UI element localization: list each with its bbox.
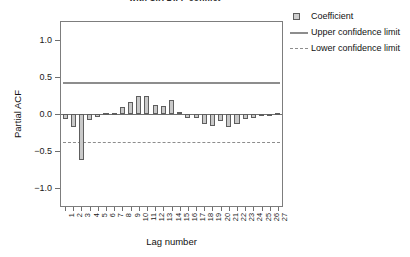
x-tick bbox=[221, 207, 222, 211]
x-tick bbox=[73, 207, 74, 211]
x-tick bbox=[163, 207, 164, 211]
x-tick bbox=[188, 207, 189, 211]
bar bbox=[153, 105, 158, 114]
y-tick-label: −1.0 bbox=[34, 183, 52, 193]
plot-area bbox=[60, 21, 283, 207]
x-tick bbox=[147, 207, 148, 211]
x-axis-title: Lag number bbox=[60, 236, 283, 247]
bar bbox=[185, 114, 190, 118]
legend-label-upper-confidence: Upper confidence limit bbox=[311, 27, 400, 37]
bar bbox=[259, 114, 264, 116]
bar bbox=[95, 114, 100, 117]
legend-label-lower-confidence: Lower confidence limit bbox=[311, 43, 400, 53]
bar bbox=[194, 114, 199, 118]
bar bbox=[112, 113, 117, 115]
bar bbox=[63, 114, 68, 119]
bar bbox=[251, 114, 256, 118]
legend: Coefficient Upper confidence limit Lower… bbox=[289, 9, 407, 57]
x-tick-label: 10 bbox=[142, 213, 149, 221]
x-tick-label: 11 bbox=[150, 213, 157, 221]
bar bbox=[120, 107, 125, 114]
x-tick-label: 26 bbox=[273, 213, 280, 221]
x-tick-label: 25 bbox=[265, 213, 272, 221]
x-tick-label: 14 bbox=[175, 213, 182, 221]
bar bbox=[177, 112, 182, 114]
x-tick-label: 3 bbox=[84, 213, 91, 217]
x-tick-label: 21 bbox=[232, 213, 239, 221]
y-tick-label: 0.0 bbox=[39, 109, 52, 119]
y-axis-title: Partial ACF bbox=[12, 64, 23, 164]
coefficient-swatch-icon bbox=[289, 10, 311, 22]
bar bbox=[87, 114, 92, 120]
y-axis: Partial ACF 1.00.50.0−0.5−1.0 bbox=[0, 21, 60, 207]
bar bbox=[79, 114, 84, 160]
x-tick bbox=[262, 207, 263, 211]
x-axis: 1234567891011121314151617181920212223242… bbox=[60, 207, 283, 237]
x-tick-label: 19 bbox=[215, 213, 222, 221]
x-tick-label: 13 bbox=[166, 213, 173, 221]
bar bbox=[128, 102, 133, 114]
x-tick bbox=[155, 207, 156, 211]
x-tick bbox=[90, 207, 91, 211]
chart-title: with SIX DIFF conflict bbox=[60, 0, 290, 2]
x-tick-label: 16 bbox=[191, 213, 198, 221]
dashed-line-icon bbox=[289, 42, 311, 54]
x-tick-label: 6 bbox=[109, 213, 116, 217]
x-tick-label: 27 bbox=[281, 213, 288, 221]
bar bbox=[161, 106, 166, 114]
x-tick-label: 17 bbox=[199, 213, 206, 221]
x-tick bbox=[253, 207, 254, 211]
bar-series bbox=[61, 22, 282, 206]
x-tick bbox=[98, 207, 99, 211]
pacf-chart-figure: with SIX DIFF conflict Partial ACF 1.00.… bbox=[0, 0, 410, 257]
legend-item-lower-confidence: Lower confidence limit bbox=[289, 41, 407, 55]
bar bbox=[275, 113, 280, 115]
y-tick-label: 0.5 bbox=[39, 72, 52, 82]
x-tick bbox=[237, 207, 238, 211]
x-tick bbox=[245, 207, 246, 211]
x-tick-label: 15 bbox=[183, 213, 190, 221]
solid-line-icon bbox=[289, 26, 311, 38]
bar bbox=[243, 114, 248, 119]
x-tick bbox=[278, 207, 279, 211]
x-tick-label: 22 bbox=[240, 213, 247, 221]
x-tick bbox=[172, 207, 173, 211]
x-tick-label: 5 bbox=[101, 213, 108, 217]
x-tick bbox=[139, 207, 140, 211]
bar bbox=[144, 96, 149, 114]
bar bbox=[103, 113, 108, 115]
x-tick-label: 20 bbox=[224, 213, 231, 221]
bar bbox=[202, 114, 207, 124]
x-tick bbox=[204, 207, 205, 211]
x-tick bbox=[65, 207, 66, 211]
bar bbox=[267, 114, 272, 116]
bar bbox=[226, 114, 231, 127]
x-tick bbox=[180, 207, 181, 211]
x-tick bbox=[270, 207, 271, 211]
bar bbox=[169, 100, 174, 114]
y-tick-label: −0.5 bbox=[34, 146, 52, 156]
x-tick-label: 9 bbox=[134, 213, 141, 217]
y-tick-label: 1.0 bbox=[39, 35, 52, 45]
x-tick bbox=[131, 207, 132, 211]
bar bbox=[71, 114, 76, 127]
x-tick bbox=[114, 207, 115, 211]
bar bbox=[136, 96, 141, 114]
x-tick bbox=[106, 207, 107, 211]
x-tick bbox=[81, 207, 82, 211]
bar bbox=[234, 114, 239, 124]
x-tick-label: 24 bbox=[256, 213, 263, 221]
legend-label-coefficient: Coefficient bbox=[311, 11, 353, 21]
legend-item-upper-confidence: Upper confidence limit bbox=[289, 25, 407, 39]
x-tick bbox=[196, 207, 197, 211]
legend-item-coefficient: Coefficient bbox=[289, 9, 407, 23]
x-tick bbox=[229, 207, 230, 211]
x-tick-label: 8 bbox=[125, 213, 132, 217]
x-tick-label: 4 bbox=[93, 213, 100, 217]
bar bbox=[210, 114, 215, 126]
bar bbox=[218, 114, 223, 121]
x-tick bbox=[122, 207, 123, 211]
x-tick bbox=[212, 207, 213, 211]
